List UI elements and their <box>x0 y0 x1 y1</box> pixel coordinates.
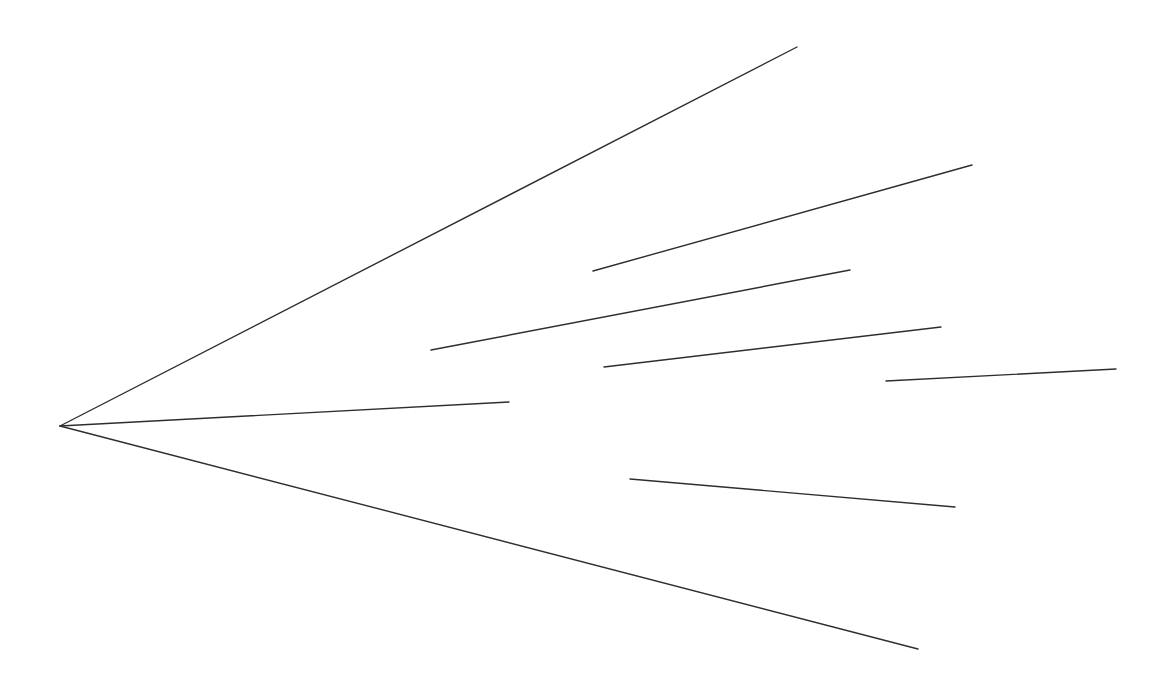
segment-4 <box>886 369 1116 381</box>
drawing-canvas <box>0 0 1152 678</box>
ray-middle <box>60 402 509 426</box>
ray-lower <box>60 426 918 649</box>
segment-2 <box>431 270 850 350</box>
ray-upper <box>60 47 797 426</box>
segment-1 <box>593 165 972 271</box>
segment-3 <box>604 327 941 367</box>
line-drawing <box>0 0 1152 678</box>
segment-5 <box>630 479 955 507</box>
